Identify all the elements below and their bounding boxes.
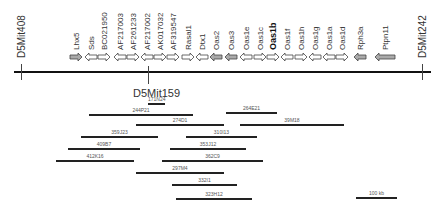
marker-tick-m159 [148, 66, 149, 84]
bac-clone-label: 39M18 [240, 117, 344, 123]
gene-label: AF217003 [116, 13, 125, 50]
gene-arrow-right-icon [254, 53, 266, 61]
gene-arrow-right-icon [98, 53, 110, 61]
gene-label: Oas2 [212, 31, 221, 50]
gene-label: Rasal1 [184, 25, 193, 50]
gene-label: AF217002 [143, 13, 152, 50]
gene-arrow-left-icon [323, 53, 335, 61]
gene-label: AF261233 [129, 13, 138, 50]
bac-clone-label: 409B7 [68, 141, 140, 147]
gene-label: AK017032 [156, 13, 165, 50]
gene-label: Oas1f [283, 29, 292, 50]
gene-label: Lhx5 [72, 33, 81, 50]
bac-clone-line [56, 160, 134, 162]
marker-tick-m408 [21, 64, 22, 80]
gene-arrow-left-icon [354, 53, 366, 61]
marker-label-m408: D5Mit408 [16, 15, 27, 58]
gene-arrow-right-icon [336, 53, 348, 61]
gene-arrow-left-icon [141, 53, 153, 61]
gene-arrow-right-icon [154, 53, 166, 61]
bac-clone-line [176, 198, 252, 200]
bac-clone-label: 274D1 [136, 117, 224, 123]
bac-clone-line [136, 172, 224, 174]
bac-clone-label: 244P21 [89, 107, 193, 113]
marker-label-m242: D5Mit242 [417, 15, 428, 58]
scale-bar-label: 100 kb [356, 190, 397, 196]
bac-clone-label: 264E21 [226, 105, 277, 111]
gene-arrow-left-icon [225, 53, 237, 61]
marker-tick-m242 [422, 64, 423, 80]
bac-clone-line [240, 124, 344, 126]
gene-arrow-left-icon [240, 53, 252, 61]
bac-clone-label: 359J23 [81, 129, 158, 135]
gene-label: Oas1g [311, 26, 320, 50]
bac-clone-label: 353J12 [170, 141, 246, 147]
bac-clone-line [186, 136, 257, 138]
bac-clone-line [172, 184, 237, 186]
gene-label: Ptpn11 [381, 25, 390, 50]
gene-arrow-left-icon [114, 53, 126, 61]
gene-label: Oas1e [242, 26, 251, 50]
bac-clone-label: 332I1 [172, 177, 237, 183]
gene-arrow-right-icon [167, 53, 179, 61]
gene-arrow-right-icon [295, 53, 307, 61]
gene-arrow-left-icon [196, 53, 208, 61]
gene-arrow-left-icon [375, 53, 395, 61]
gene-label: Dtx1 [198, 34, 207, 50]
bac-clone-line [89, 114, 193, 116]
bac-clone-line [170, 148, 246, 150]
gene-label: Oas1b [269, 22, 278, 50]
gene-label: Oas3 [227, 31, 236, 50]
bac-clone-line [68, 148, 140, 150]
gene-arrow-left-icon [210, 53, 222, 61]
gene-arrow-right-icon [182, 53, 194, 61]
gene-arrow-right-icon [70, 53, 82, 61]
gene-label: BC021950 [100, 12, 109, 50]
gene-arrow-right-icon [127, 53, 139, 61]
gene-label: Sds [87, 36, 96, 50]
bac-clone-label: 310I13 [186, 129, 257, 135]
gene-arrow-right-icon [267, 53, 279, 61]
gene-label: Oas1a [325, 26, 334, 50]
bac-clone-line [81, 136, 158, 138]
bac-clone-line [162, 160, 263, 162]
scale-bar-line [356, 197, 397, 199]
gene-label: AF319547 [169, 13, 178, 50]
gene-arrow-left-icon [85, 53, 97, 61]
gene-label: Oas1c [256, 27, 265, 50]
gene-label: Oas1d [338, 26, 347, 50]
gene-arrow-left-icon [309, 53, 321, 61]
gene-label: Rph3a [356, 26, 365, 50]
bac-clone-label: 297M4 [136, 165, 224, 171]
gene-label: Oas1h [297, 26, 306, 50]
bac-clone-label: 323H12 [176, 191, 252, 197]
bac-clone-line [136, 124, 224, 126]
gene-arrow-left-icon [281, 53, 293, 61]
bac-clone-line [148, 103, 165, 105]
bac-clone-label: 362C9 [162, 153, 263, 159]
bac-clone-label: 412K16 [56, 153, 134, 159]
bac-clone-line [226, 112, 277, 114]
bac-clone-label: 171N24 [148, 96, 165, 102]
chromosome-axis [14, 71, 431, 73]
